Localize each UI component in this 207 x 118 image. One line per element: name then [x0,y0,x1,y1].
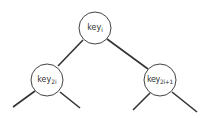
edge-right-child-left [133,93,150,110]
edge-left-child-left [13,91,35,107]
node-left-label: key2i [37,75,57,86]
edge-left-child-right [60,92,80,108]
edge-right-child-right [172,92,197,112]
node-root-label: keyi [87,23,103,34]
label-subscript: 2i [51,78,56,85]
heap-tree-diagram [0,0,207,118]
edge-root-left [58,40,83,66]
node-right-label: key2i+1 [147,75,173,86]
label-base: key [147,75,160,84]
label-base: key [37,75,51,84]
edge-root-right [107,39,148,69]
label-base: key [87,23,101,32]
label-subscript: 2i+1 [160,78,173,85]
label-subscript: i [101,26,103,33]
